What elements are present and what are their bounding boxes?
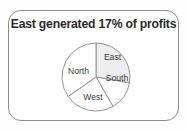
pie-slice-label-east: East (104, 52, 122, 62)
pie-chart: EastSouthWestNorth (60, 41, 134, 115)
pie-slice-label-west: West (83, 92, 103, 102)
pie-slice-label-south: South (106, 73, 129, 83)
page-title: East generated 17% of profits (8, 17, 179, 32)
pie-slice-label-north: North (68, 66, 89, 76)
slide-canvas: East generated 17% of profits EastSouthW… (0, 0, 189, 132)
pie-chart-svg: EastSouthWestNorth (60, 41, 134, 115)
